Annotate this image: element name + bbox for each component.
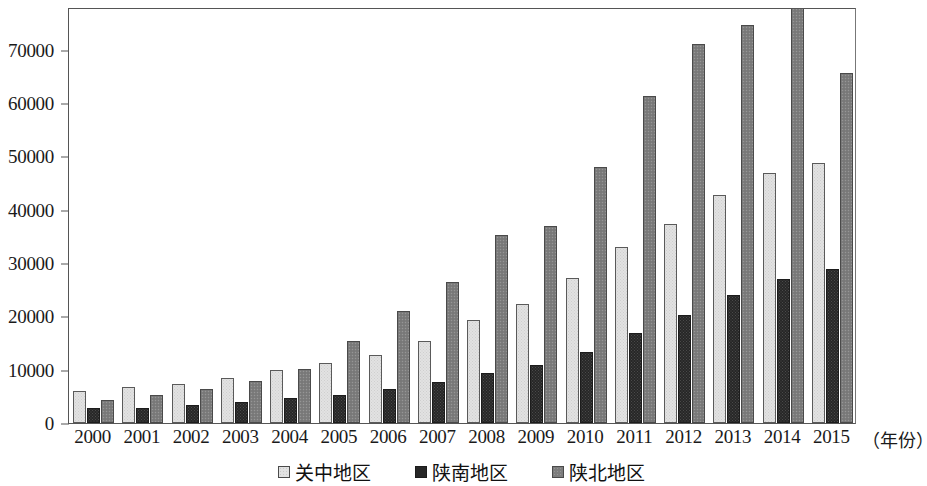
- legend-item[interactable]: 关中地区: [278, 458, 371, 485]
- bar: [319, 363, 332, 423]
- x-tick-label: 2010: [567, 426, 604, 448]
- x-tick-label: 2004: [271, 426, 308, 448]
- x-tick-label: 2007: [419, 426, 456, 448]
- x-tick-label: 2000: [74, 426, 111, 448]
- bar: [383, 389, 396, 423]
- bar: [418, 341, 431, 423]
- bar: [284, 398, 297, 423]
- bar: [826, 269, 839, 423]
- bar: [221, 378, 234, 423]
- x-tick-label: 2012: [665, 426, 702, 448]
- bar-group: [463, 9, 512, 423]
- legend-label: 陕南地区: [432, 458, 508, 485]
- x-tick-label: 2005: [320, 426, 357, 448]
- bar-group: [562, 9, 611, 423]
- y-tick-label: 20000: [8, 306, 54, 328]
- x-axis-title: （年份）: [862, 426, 927, 452]
- plot-area: [68, 8, 856, 424]
- bar: [270, 370, 283, 423]
- y-tick-label: 70000: [8, 40, 54, 62]
- bar: [664, 224, 677, 423]
- bar: [544, 226, 557, 423]
- bar: [87, 408, 100, 423]
- bar-group: [168, 9, 217, 423]
- bar-group: [512, 9, 561, 423]
- chart-legend: 关中地区陕南地区陕北地区: [0, 458, 922, 485]
- bar: [446, 282, 459, 423]
- bar: [530, 365, 543, 423]
- bar: [495, 235, 508, 423]
- bar: [369, 355, 382, 423]
- bar: [713, 195, 726, 423]
- bar: [692, 44, 705, 423]
- bar: [741, 25, 754, 423]
- bar: [200, 389, 213, 423]
- bar: [516, 304, 529, 423]
- bar: [432, 382, 445, 423]
- bar: [73, 391, 86, 423]
- x-tick-label: 2002: [173, 426, 210, 448]
- bar: [840, 73, 853, 423]
- x-tick-label: 2006: [370, 426, 407, 448]
- x-tick-label: 2011: [616, 426, 652, 448]
- bar: [298, 369, 311, 423]
- bar-group: [217, 9, 266, 423]
- y-tick-label: 40000: [8, 200, 54, 222]
- bar-group: [759, 9, 808, 423]
- bar: [122, 387, 135, 423]
- legend-swatch-icon: [552, 466, 564, 478]
- bar: [566, 278, 579, 423]
- bar: [791, 8, 804, 423]
- bar: [777, 279, 790, 423]
- x-tick-label: 2015: [813, 426, 850, 448]
- legend-swatch-icon: [415, 466, 427, 478]
- bar-group: [69, 9, 118, 423]
- bar: [249, 381, 262, 423]
- bar: [615, 247, 628, 423]
- bar-group: [709, 9, 758, 423]
- x-axis: （年份） 20002001200220032004200520062007200…: [0, 426, 922, 454]
- bar: [172, 384, 185, 423]
- bar: [347, 341, 360, 423]
- bar-group: [611, 9, 660, 423]
- bar: [812, 163, 825, 423]
- x-tick-label: 2014: [764, 426, 801, 448]
- legend-item[interactable]: 陕北地区: [552, 458, 645, 485]
- x-tick-label: 2008: [468, 426, 505, 448]
- legend-label: 关中地区: [295, 458, 371, 485]
- bar-group: [414, 9, 463, 423]
- bar: [643, 96, 656, 423]
- bar: [580, 352, 593, 423]
- bar: [186, 405, 199, 423]
- bars-layer: [69, 9, 855, 423]
- x-tick-label: 2001: [123, 426, 160, 448]
- y-axis: 010000200003000040000500006000070000: [0, 0, 68, 432]
- legend-item[interactable]: 陕南地区: [415, 458, 508, 485]
- bar: [763, 173, 776, 423]
- bar: [727, 295, 740, 423]
- y-tick-label: 10000: [8, 360, 54, 382]
- x-tick-label: 2003: [222, 426, 259, 448]
- legend-swatch-icon: [278, 466, 290, 478]
- legend-label: 陕北地区: [569, 458, 645, 485]
- bar-group: [266, 9, 315, 423]
- bar-group: [315, 9, 364, 423]
- bar: [397, 311, 410, 423]
- bar: [235, 402, 248, 423]
- bar: [150, 395, 163, 423]
- y-tick-label: 60000: [8, 93, 54, 115]
- bar: [136, 408, 149, 423]
- bar: [629, 333, 642, 423]
- y-tick-label: 30000: [8, 253, 54, 275]
- bar: [333, 395, 346, 423]
- bar: [678, 315, 691, 423]
- x-tick-label: 2009: [517, 426, 554, 448]
- bar: [467, 320, 480, 423]
- bar: [481, 373, 494, 423]
- x-tick-label: 2013: [714, 426, 751, 448]
- bar-group: [118, 9, 167, 423]
- bar-group: [660, 9, 709, 423]
- bar-group: [365, 9, 414, 423]
- bar-group: [808, 9, 856, 423]
